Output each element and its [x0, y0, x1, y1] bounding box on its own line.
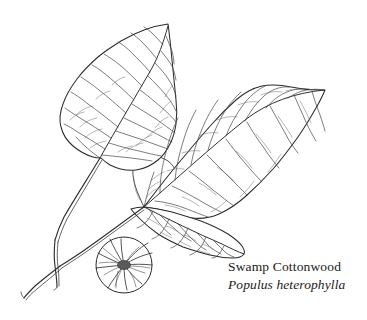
scientific-name-label: Populus heterophylla	[228, 276, 367, 294]
upper-left-leaf	[60, 24, 177, 170]
botanical-illustration-plate: Swamp Cottonwood Populus heterophylla	[0, 0, 367, 320]
bud-detail-inset	[96, 237, 152, 293]
caption: Swamp Cottonwood Populus heterophylla	[228, 258, 367, 295]
common-name-label: Swamp Cottonwood	[228, 258, 367, 276]
